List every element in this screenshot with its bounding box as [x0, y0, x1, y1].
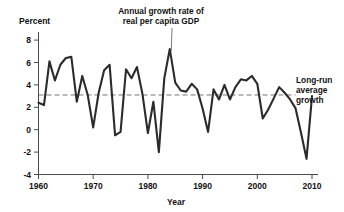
annotation-leader-line — [171, 28, 172, 51]
y-tick-label: 2 — [26, 102, 31, 112]
series-annotation-line-1: Annual growth rate of — [118, 6, 204, 16]
reference-annotation-line-1: Long-run — [296, 75, 332, 85]
reference-annotation-line-2: average — [296, 85, 328, 95]
chart-canvas: Percent 8 6 4 2 0 -2 -4 1960 1970 — [0, 0, 344, 212]
y-tick-label: 4 — [26, 80, 31, 90]
reference-annotation-line-3: growth — [296, 95, 324, 105]
y-tick-label: -4 — [23, 170, 31, 180]
series-annotation: Annual growth rate of real per capita GD… — [118, 6, 204, 26]
gdp-growth-line — [39, 49, 313, 159]
y-axis-label: Percent — [19, 16, 50, 26]
x-axis-ticks: 1960 1970 1980 1990 2000 2010 — [29, 175, 322, 192]
x-tick-label: 1960 — [29, 181, 48, 191]
x-tick-label: 2010 — [303, 181, 322, 191]
x-tick-label: 1970 — [84, 181, 103, 191]
y-tick-label: 0 — [26, 125, 31, 135]
x-tick-label: 1990 — [193, 181, 212, 191]
y-tick-label: 8 — [26, 35, 31, 45]
y-tick-label: 6 — [26, 58, 31, 68]
chart-figure: Percent 8 6 4 2 0 -2 -4 1960 1970 — [0, 0, 344, 212]
y-axis-ticks: 8 6 4 2 0 -2 -4 — [23, 35, 38, 179]
reference-line-annotation: Long-run average growth — [296, 75, 332, 105]
x-tick-label: 1980 — [138, 181, 157, 191]
x-tick-label: 2000 — [248, 181, 267, 191]
x-axis-label: Year — [167, 197, 186, 207]
series-annotation-line-2: real per capita GDP — [123, 16, 200, 26]
y-tick-label: -2 — [23, 147, 31, 157]
